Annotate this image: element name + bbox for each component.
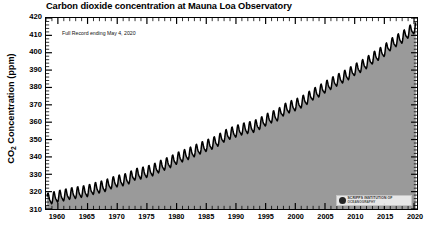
y-tick-label: 330 (16, 171, 42, 179)
co2-series-plot (46, 18, 417, 209)
y-tick-label: 380 (16, 83, 42, 91)
scripps-logo: SCRIPPS INSTITUTION OF OCEANOGRAPHY (336, 195, 412, 206)
x-tick-label: 1970 (108, 213, 124, 220)
x-tick-label: 2005 (317, 213, 333, 220)
scripps-logo-text: SCRIPPS INSTITUTION OF OCEANOGRAPHY (348, 197, 393, 204)
scripps-circle-icon (339, 197, 346, 204)
logo-line-2: OCEANOGRAPHY (348, 201, 393, 204)
x-axis-tick-labels: 1960196519701975198019851990199520002005… (0, 213, 429, 227)
y-tick-label: 400 (16, 48, 42, 56)
chart-figure: Carbon dioxide concentration at Mauna Lo… (0, 0, 429, 247)
x-tick-label: 2000 (288, 213, 304, 220)
y-tick-label: 420 (16, 13, 42, 21)
x-tick-label: 1990 (228, 213, 244, 220)
x-tick-label: 2020 (407, 213, 423, 220)
x-tick-label: 1995 (258, 213, 274, 220)
x-tick-label: 1960 (49, 213, 65, 220)
x-tick-label: 1965 (79, 213, 95, 220)
x-tick-label: 1985 (198, 213, 214, 220)
y-axis-tick-labels: 310320330340350360370380390400410420 (14, 0, 42, 247)
y-tick-label: 360 (16, 118, 42, 126)
x-tick-label: 1980 (168, 213, 184, 220)
y-tick-label: 350 (16, 136, 42, 144)
x-tick-label: 1975 (138, 213, 154, 220)
y-tick-label: 320 (16, 189, 42, 197)
y-tick-label: 410 (16, 31, 42, 39)
y-tick-label: 390 (16, 66, 42, 74)
plot-area: Full Record ending May 4, 2020 (45, 17, 418, 210)
co2-area-fill (47, 22, 416, 209)
chart-title: Carbon dioxide concentration at Mauna Lo… (46, 1, 416, 11)
x-tick-label: 2015 (377, 213, 393, 220)
x-tick-label: 2010 (347, 213, 363, 220)
y-tick-label: 340 (16, 154, 42, 162)
y-tick-label: 370 (16, 101, 42, 109)
